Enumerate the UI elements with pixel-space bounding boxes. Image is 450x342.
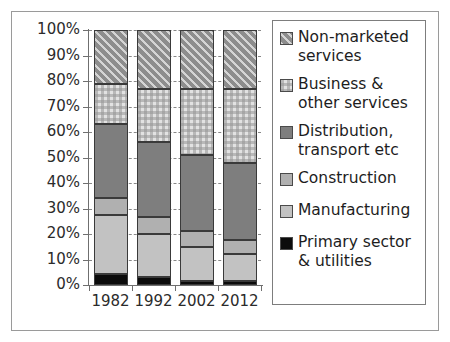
- x-tick-mark: [218, 285, 219, 291]
- bar-segment[interactable]: [223, 89, 257, 163]
- x-tick-mark: [261, 285, 262, 291]
- legend-swatch-icon: [280, 205, 293, 218]
- bar-segment[interactable]: [94, 215, 128, 274]
- x-axis-tick-label: 1992: [132, 292, 175, 310]
- legend-swatch-icon: [280, 126, 293, 139]
- legend-swatch-icon: [280, 79, 293, 92]
- chart-legend: Non-marketed servicesBusiness & other se…: [272, 20, 426, 305]
- legend-spacer: [280, 190, 421, 201]
- bar-segment[interactable]: [180, 155, 214, 232]
- legend-item-primary[interactable]: Primary sector & utilities: [280, 233, 421, 271]
- legend-item-label: Distribution, transport etc: [298, 122, 399, 160]
- legend-swatch-icon: [280, 32, 293, 45]
- y-axis-tick-label: 10%: [20, 250, 80, 268]
- bar-segment[interactable]: [180, 89, 214, 155]
- bar-segment[interactable]: [223, 163, 257, 241]
- legend-item-distribution[interactable]: Distribution, transport etc: [280, 122, 421, 160]
- legend-swatch-icon: [280, 173, 293, 186]
- bar-segment[interactable]: [137, 89, 171, 143]
- y-axis-tick-label: 100%: [20, 20, 80, 38]
- legend-item-label: Non-marketed services: [298, 28, 409, 66]
- bar-segment[interactable]: [180, 247, 214, 281]
- x-tick-mark: [89, 285, 90, 291]
- y-axis-tick-label: 50%: [20, 148, 80, 166]
- legend-item-label: Construction: [298, 169, 397, 188]
- legend-item-manufacturing[interactable]: Manufacturing: [280, 201, 421, 220]
- x-axis-tick-label: 2012: [218, 292, 261, 310]
- bar-column-1992[interactable]: [137, 30, 171, 285]
- y-axis-tick-label: 40%: [20, 173, 80, 191]
- y-axis-tick-label: 30%: [20, 199, 80, 217]
- bar-segment[interactable]: [137, 234, 171, 277]
- bar-column-1982[interactable]: [94, 30, 128, 285]
- legend-item-business[interactable]: Business & other services: [280, 75, 421, 113]
- plot-area: [89, 30, 261, 285]
- bar-segment[interactable]: [223, 254, 257, 281]
- x-tick-mark: [132, 285, 133, 291]
- bar-segment[interactable]: [137, 277, 171, 285]
- bar-column-2012[interactable]: [223, 30, 257, 285]
- bar-segment[interactable]: [94, 124, 128, 198]
- y-axis-tick-label: 20%: [20, 224, 80, 242]
- legend-spacer: [280, 162, 421, 169]
- bar-segment[interactable]: [180, 281, 214, 285]
- y-axis-tick-label: 0%: [20, 275, 80, 293]
- y-axis-tick-label: 70%: [20, 97, 80, 115]
- bar-segment[interactable]: [137, 30, 171, 89]
- chart-figure: 100%90%80%70%60%50%40%30%20%10%0% 198219…: [0, 0, 450, 342]
- legend-item-nonmarketed[interactable]: Non-marketed services: [280, 28, 421, 66]
- legend-item-construction[interactable]: Construction: [280, 169, 421, 188]
- legend-item-label: Business & other services: [298, 75, 408, 113]
- legend-spacer: [280, 115, 421, 122]
- x-tick-mark: [175, 285, 176, 291]
- y-axis-tick-label: 80%: [20, 71, 80, 89]
- bar-segment[interactable]: [137, 217, 171, 234]
- x-axis-tick-label: 1982: [89, 292, 132, 310]
- bar-segment[interactable]: [180, 231, 214, 246]
- legend-item-label: Manufacturing: [298, 201, 410, 220]
- bar-segment[interactable]: [223, 30, 257, 89]
- bar-segment[interactable]: [94, 198, 128, 215]
- bar-segment[interactable]: [94, 274, 128, 285]
- legend-spacer: [280, 68, 421, 75]
- bar-segment[interactable]: [94, 84, 128, 125]
- legend-swatch-icon: [280, 237, 293, 250]
- legend-spacer: [280, 222, 421, 233]
- bar-segment[interactable]: [223, 240, 257, 254]
- bar-segment[interactable]: [223, 281, 257, 285]
- x-axis-tick-label: 2002: [175, 292, 218, 310]
- bar-column-2002[interactable]: [180, 30, 214, 285]
- bar-segment[interactable]: [137, 142, 171, 217]
- bar-segment[interactable]: [94, 30, 128, 84]
- legend-item-label: Primary sector & utilities: [298, 233, 411, 271]
- y-axis-tick-label: 60%: [20, 122, 80, 140]
- y-axis-tick-label: 90%: [20, 46, 80, 64]
- bar-segment[interactable]: [180, 30, 214, 89]
